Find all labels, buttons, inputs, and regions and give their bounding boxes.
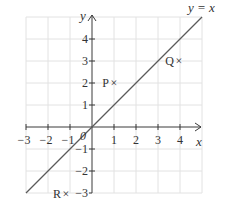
svg-text:1: 1 (82, 98, 88, 112)
svg-text:2: 2 (82, 76, 88, 90)
svg-text:−3: −3 (75, 186, 88, 200)
coordinate-diagram: y = x x y 0 −3 −2 −1 1 2 3 4 4 3 2 1 −1 … (0, 0, 233, 211)
point-q-label: Q (165, 54, 174, 68)
point-r: R × (53, 187, 69, 201)
origin-label: 0 (80, 129, 86, 143)
svg-text:−1: −1 (62, 133, 75, 147)
x-tick-labels: −3 −2 −1 1 2 3 4 (18, 133, 183, 147)
point-r-marker: × (63, 187, 70, 201)
y-tick-labels: 4 3 2 1 −1 −2 −3 (75, 32, 88, 200)
svg-text:3: 3 (155, 133, 161, 147)
x-axis-label: x (195, 134, 202, 149)
line-label: y = x (186, 0, 215, 15)
point-p-marker: × (111, 76, 118, 90)
y-axis (88, 15, 96, 193)
x-axis (26, 123, 201, 131)
svg-text:4: 4 (82, 32, 88, 46)
svg-text:−1: −1 (75, 142, 88, 156)
svg-text:−2: −2 (75, 164, 88, 178)
point-r-label: R (53, 187, 61, 201)
point-p-label: P (102, 76, 109, 90)
svg-text:−3: −3 (18, 133, 31, 147)
svg-text:1: 1 (111, 133, 117, 147)
y-axis-label: y (78, 8, 86, 23)
svg-text:3: 3 (82, 54, 88, 68)
svg-text:−2: −2 (40, 133, 53, 147)
svg-text:2: 2 (133, 133, 139, 147)
svg-text:4: 4 (177, 133, 183, 147)
point-p: P × (102, 76, 117, 90)
point-q: Q × (165, 54, 182, 68)
point-q-marker: × (176, 54, 183, 68)
